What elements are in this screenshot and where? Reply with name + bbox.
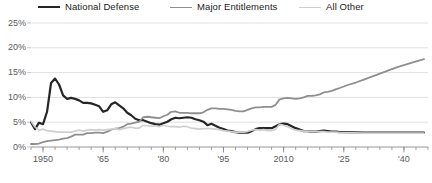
- y-axis-label: 25%: [0, 19, 26, 28]
- data-series-layer: [31, 59, 424, 144]
- y-axis-label: 0%: [0, 143, 26, 152]
- line-swatch-icon: [38, 6, 60, 8]
- y-axis-label: 20%: [0, 43, 26, 52]
- plot-area: 25% 20% 15% 10% 5% 0% 1950 '65 '80 '95 2…: [0, 16, 432, 183]
- legend-item-major-entitlements: Major Entitlements: [170, 0, 277, 14]
- x-axis-label: 2010: [264, 155, 304, 164]
- y-axis-label: 10%: [0, 93, 26, 102]
- line-swatch-icon: [299, 7, 321, 8]
- x-axis-label: '80: [143, 155, 183, 164]
- line-swatch-icon: [170, 7, 192, 8]
- y-axis-label: 15%: [0, 68, 26, 77]
- legend-label: All Other: [326, 0, 364, 14]
- y-axis-label: 5%: [0, 118, 26, 127]
- chart-legend: National Defense Major Entitlements All …: [0, 0, 432, 16]
- x-axis-ticks: [31, 147, 428, 153]
- x-axis-label: '65: [83, 155, 123, 164]
- gridlines: [31, 23, 428, 147]
- y-axis-tickmarks: [27, 23, 31, 147]
- x-axis-label: '40: [384, 155, 424, 164]
- x-axis-label: '25: [324, 155, 364, 164]
- legend-label: Major Entitlements: [197, 0, 277, 14]
- legend-item-all-other: All Other: [299, 0, 364, 14]
- chart-figure: National Defense Major Entitlements All …: [0, 0, 432, 183]
- legend-item-national-defense: National Defense: [38, 0, 139, 14]
- x-axis-label: '95: [203, 155, 243, 164]
- legend-label: National Defense: [65, 0, 139, 14]
- x-axis-label: 1950: [23, 155, 63, 164]
